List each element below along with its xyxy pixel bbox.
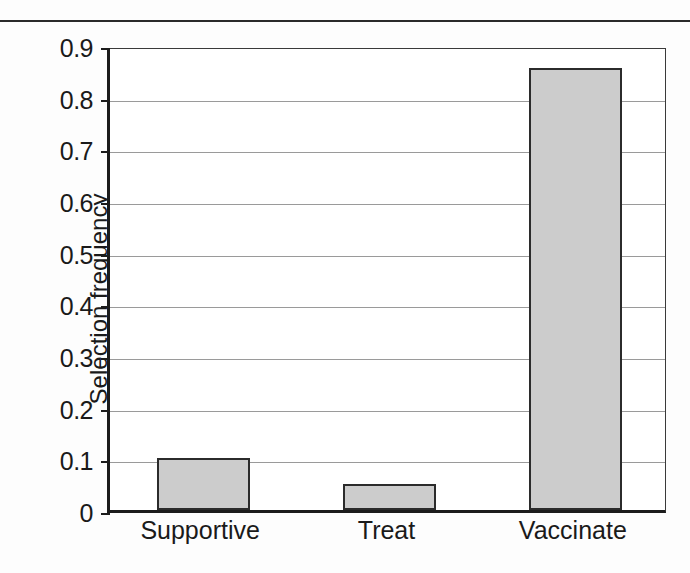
x-axis-label-treat: Treat bbox=[358, 516, 415, 545]
y-axis-tick bbox=[101, 410, 110, 412]
y-axis-tick-label: 0.9 bbox=[60, 34, 93, 63]
bar-vaccinate bbox=[529, 68, 622, 510]
figure-page: Selection frequency 00.10.20.30.40.50.60… bbox=[0, 0, 690, 573]
bar-series bbox=[110, 49, 665, 510]
x-axis-tick-labels: SupportiveTreatVaccinate bbox=[107, 516, 666, 556]
y-axis-tick bbox=[101, 461, 110, 463]
y-axis-tick bbox=[101, 100, 110, 102]
y-axis-tick-label: 0.7 bbox=[60, 137, 93, 166]
y-axis-tick-label: 0.8 bbox=[60, 85, 93, 114]
bar-chart: Selection frequency 00.10.20.30.40.50.60… bbox=[0, 24, 690, 573]
y-axis-tick bbox=[101, 48, 110, 50]
x-axis-label-supportive: Supportive bbox=[140, 516, 260, 545]
bar-supportive bbox=[157, 458, 250, 510]
bar-treat bbox=[343, 484, 436, 510]
page-header-rule bbox=[0, 20, 690, 22]
plot-area bbox=[107, 48, 666, 513]
x-axis-label-vaccinate: Vaccinate bbox=[519, 516, 627, 545]
y-axis-tick-label: 0 bbox=[80, 499, 93, 528]
y-axis-tick bbox=[101, 513, 110, 515]
y-axis-tick-label: 0.1 bbox=[60, 447, 93, 476]
y-axis-tick bbox=[101, 151, 110, 153]
